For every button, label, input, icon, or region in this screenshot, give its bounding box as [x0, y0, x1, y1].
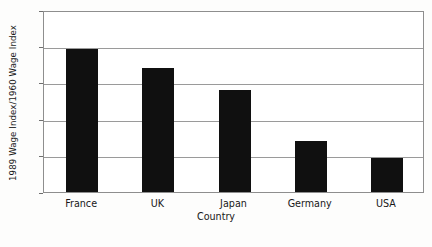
bar	[371, 158, 403, 192]
bar-chart-figure: 1989 Wage Index/1960 Wage Index 05101520…	[0, 0, 432, 247]
plot-area	[43, 11, 424, 193]
bar	[295, 141, 327, 192]
bar	[219, 90, 251, 192]
gridline	[44, 84, 423, 85]
y-axis-title: 1989 Wage Index/1960 Wage Index	[6, 3, 20, 203]
bar	[142, 68, 174, 192]
bar	[66, 49, 98, 192]
x-axis-title: Country	[0, 211, 432, 222]
x-axis-tick-label: USA	[336, 198, 432, 209]
gridline	[44, 48, 423, 49]
